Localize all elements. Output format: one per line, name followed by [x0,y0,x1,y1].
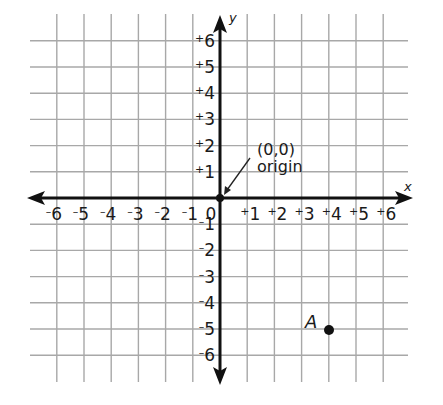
x-tick-label: –3 [127,204,143,224]
x-tick-label: –5 [73,204,89,224]
point-a [324,325,334,335]
y-tick-label: +3 [195,109,215,129]
x-tick-label: +4 [322,204,342,224]
x-tick-label: –1 [182,204,198,224]
x-tick-label: –4 [100,204,116,224]
origin-point [216,194,224,202]
x-tick-label: +6 [376,204,396,224]
y-tick-label: –5 [199,319,215,339]
y-tick-label: +6 [195,31,215,51]
x-axis-label: x [403,179,412,194]
y-tick-label: –6 [199,345,215,365]
y-tick-label: +4 [195,83,215,103]
y-tick-label: +1 [195,162,215,182]
x-tick-label: +5 [349,204,369,224]
origin-word-label: origin [257,157,303,176]
x-tick-label: +1 [240,204,260,224]
y-tick-label: –3 [199,267,215,287]
x-tick-label: +3 [295,204,315,224]
x-tick-label: –6 [46,204,62,224]
y-axis-label: y [228,10,237,25]
y-tick-label: +5 [195,57,215,77]
origin-pointer-arrowhead-icon [224,186,231,195]
y-tick-label: –2 [199,240,215,260]
y-tick-label: +2 [195,136,215,156]
y-tick-label: –4 [199,293,215,313]
point-a-label: A [304,311,317,332]
x-tick-label: +2 [267,204,287,224]
y-tick-label: –1 [199,214,215,234]
x-tick-label: –2 [154,204,170,224]
coordinate-plane: –6–5–4–3–2–10+1+2+3+4+5+6 +6+5+4+3+2+1–1… [0,0,443,405]
